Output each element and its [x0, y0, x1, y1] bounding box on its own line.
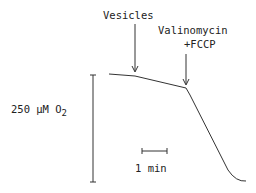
valinomycin-label: Valinomycin — [158, 24, 228, 36]
vesicles-arrow-icon — [132, 24, 138, 72]
x-scale-bar — [142, 148, 167, 154]
vesicles-label: Vesicles — [103, 9, 154, 21]
valinomycin-arrow-icon — [183, 54, 189, 85]
oxygen-trace-line — [109, 74, 246, 181]
fccp-label: +FCCP — [184, 38, 216, 50]
y-scale-label: 250 µM O2 — [11, 103, 67, 118]
oxygen-trace-diagram: Vesicles Valinomycin +FCCP 250 µM O2 1 m… — [0, 0, 256, 193]
y-scale-bar — [90, 75, 96, 182]
x-scale-label: 1 min — [135, 162, 167, 174]
